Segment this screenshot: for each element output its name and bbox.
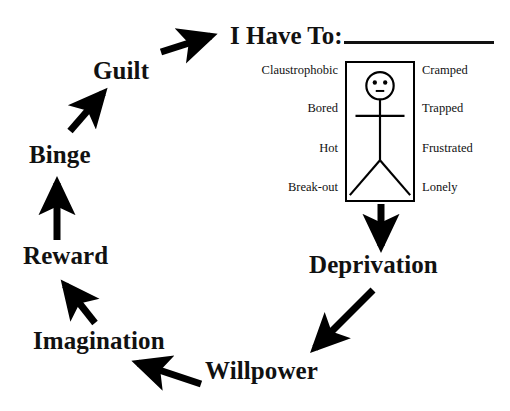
node-imagination[interactable]: Imagination: [33, 328, 165, 353]
heading-prompt-text: I Have To:: [230, 22, 343, 49]
label-bored: Bored: [232, 102, 338, 115]
label-claustrophobic: Claustrophobic: [232, 64, 338, 77]
label-trapped: Trapped: [422, 102, 463, 115]
node-guilt[interactable]: Guilt: [93, 58, 149, 83]
fill-in-blank-line: [344, 20, 494, 44]
arrow-guilt-to-heading: [161, 36, 211, 52]
label-break-out: Break-out: [232, 181, 338, 194]
node-reward[interactable]: Reward: [23, 243, 108, 268]
heading-i-have-to: I Have To:: [230, 20, 494, 48]
node-willpower[interactable]: Willpower: [205, 358, 318, 383]
label-frustrated: Frustrated: [422, 142, 473, 155]
arrow-binge-to-guilt: [70, 93, 103, 131]
stick-figure-icon: [347, 63, 413, 200]
arrow-willpower-to-imagination: [138, 363, 201, 384]
label-lonely: Lonely: [422, 181, 457, 194]
node-deprivation[interactable]: Deprivation: [309, 252, 438, 277]
node-binge[interactable]: Binge: [29, 142, 91, 167]
arrow-imagination-to-reward: [65, 285, 95, 323]
stick-figure-box: [345, 61, 415, 202]
diagram-canvas: I Have To: Guilt Binge Reward Imaginatio…: [0, 0, 510, 411]
label-hot: Hot: [232, 142, 338, 155]
arrow-deprivation-to-willpower: [315, 290, 373, 348]
label-cramped: Cramped: [422, 64, 468, 77]
